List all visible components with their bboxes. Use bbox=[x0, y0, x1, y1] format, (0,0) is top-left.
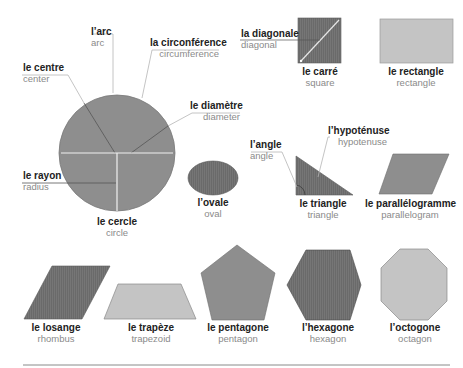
rectangle-label-fr: le rectangle bbox=[381, 66, 451, 78]
trapezoid-label-fr: le trapèze bbox=[123, 322, 179, 334]
hexagon-label-fr: l’hexagone bbox=[295, 322, 361, 334]
angle-label-en: angle bbox=[250, 151, 282, 162]
triangle-label-fr: le triangle bbox=[292, 198, 354, 210]
diagonal-label: la diagonale diagonal bbox=[241, 28, 299, 50]
hypotenuse-label-en: hypotenuse bbox=[328, 137, 387, 148]
oval-label-fr: l’ovale bbox=[188, 197, 238, 209]
trapezoid-shape bbox=[104, 284, 196, 319]
parallelogram-label-en: parallelogram bbox=[365, 210, 455, 221]
octagon-label-fr: l’octogone bbox=[382, 322, 448, 334]
center-label-fr: le centre bbox=[23, 62, 64, 74]
pentagon-label-fr: le pentagone bbox=[205, 322, 271, 334]
square-label: le carré square bbox=[290, 66, 350, 88]
rectangle-label: le rectangle rectangle bbox=[381, 66, 451, 88]
rectangle-shape bbox=[380, 19, 453, 63]
hexagon-shape bbox=[287, 250, 361, 320]
arc-label-en: arc bbox=[91, 38, 112, 49]
octagon-label: l’octogone octagon bbox=[382, 322, 448, 344]
trapezoid-label: le trapèze trapezoid bbox=[123, 322, 179, 344]
angle-label: l’angle angle bbox=[250, 139, 282, 161]
center-label-en: center bbox=[23, 74, 64, 85]
oval-shape bbox=[188, 161, 238, 195]
circle-label-fr: le cercle bbox=[87, 216, 147, 228]
center-label: le centre center bbox=[23, 62, 64, 84]
triangle-label-en: triangle bbox=[292, 210, 354, 221]
diagonal-label-en: diagonal bbox=[241, 40, 299, 51]
circle-label-en: circle bbox=[87, 228, 147, 239]
trapezoid-label-en: trapezoid bbox=[123, 334, 179, 345]
octagon-shape bbox=[381, 249, 447, 320]
square-label-fr: le carré bbox=[290, 66, 350, 78]
pentagon-label-en: pentagon bbox=[205, 334, 271, 345]
radius-label-en: radius bbox=[23, 182, 61, 193]
arc-label: l’arc arc bbox=[91, 26, 112, 48]
shapes-diagram: l’arc arc la circonférence circumference… bbox=[0, 0, 463, 368]
pentagon-label: le pentagone pentagon bbox=[205, 322, 271, 344]
octagon-label-en: octagon bbox=[382, 334, 448, 345]
circumference-label-fr: la circonférence bbox=[150, 37, 219, 49]
diameter-label-en: diameter bbox=[190, 112, 240, 123]
angle-label-fr: l’angle bbox=[250, 139, 282, 151]
circumference-label: la circonférence circumference bbox=[150, 37, 219, 59]
rectangle-label-en: rectangle bbox=[381, 78, 451, 89]
pentagon-shape bbox=[201, 245, 275, 320]
circumference-label-en: circumference bbox=[150, 49, 219, 60]
rhombus-shape bbox=[24, 266, 110, 319]
shapes-canvas bbox=[0, 0, 463, 368]
rhombus-label-en: rhombus bbox=[28, 334, 84, 345]
triangle-label: le triangle triangle bbox=[292, 198, 354, 220]
hypotenuse-label: l’hypoténuse hypotenuse bbox=[328, 125, 387, 147]
radius-label: le rayon radius bbox=[23, 170, 61, 192]
oval-label-en: oval bbox=[188, 209, 238, 220]
diagonal-label-fr: la diagonale bbox=[241, 28, 299, 40]
parallelogram-label: le parallélogramme parallelogram bbox=[365, 198, 455, 220]
diameter-label-fr: le diamètre bbox=[190, 100, 240, 112]
hexagon-label-en: hexagon bbox=[295, 334, 361, 345]
circle-shape bbox=[22, 95, 175, 211]
rhombus-label: le losange rhombus bbox=[28, 322, 84, 344]
parallelogram-shape bbox=[379, 154, 449, 194]
hypotenuse-label-fr: l’hypoténuse bbox=[328, 125, 387, 137]
oval-label: l’ovale oval bbox=[188, 197, 238, 219]
parallelogram-label-fr: le parallélogramme bbox=[365, 198, 455, 210]
diameter-label: le diamètre diameter bbox=[190, 100, 240, 122]
square-label-en: square bbox=[290, 78, 350, 89]
circle-label: le cercle circle bbox=[87, 216, 147, 238]
radius-label-fr: le rayon bbox=[23, 170, 61, 182]
arc-label-fr: l’arc bbox=[91, 26, 112, 38]
rhombus-label-fr: le losange bbox=[28, 322, 84, 334]
hexagon-label: l’hexagone hexagon bbox=[295, 322, 361, 344]
